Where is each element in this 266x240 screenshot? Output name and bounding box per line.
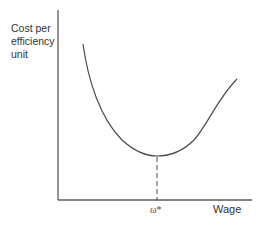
cost-curve <box>83 44 237 156</box>
y-axis-label-line-1: Cost per <box>11 22 55 35</box>
y-axis-label: Cost per efficiency unit <box>11 22 55 61</box>
x-axis-label: Wage <box>213 203 241 215</box>
y-axis-label-line-3: unit <box>11 48 55 61</box>
y-axis-label-line-2: efficiency <box>11 35 55 48</box>
omega-star-tick-label: ω* <box>150 204 162 215</box>
